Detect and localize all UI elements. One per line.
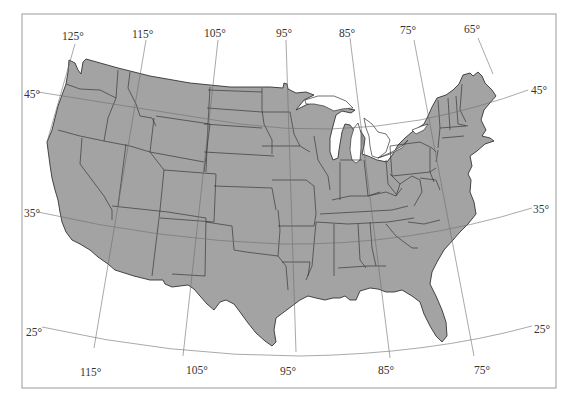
lat-label-right-35: 35° bbox=[533, 203, 550, 215]
lon-label-top-85: 85° bbox=[339, 27, 356, 39]
lat-label-left-45: 45° bbox=[24, 88, 41, 100]
lon-label-top-125: 125° bbox=[62, 30, 84, 42]
lon-label-top-75: 75° bbox=[400, 24, 417, 36]
lon-label-top-115: 115° bbox=[132, 28, 154, 40]
lon-label-bottom-85: 85° bbox=[378, 364, 395, 376]
lon-label-bottom-75: 75° bbox=[474, 364, 491, 376]
map-canvas: 125° 115° 105° 95° 85° 75° 65° 115° 105°… bbox=[0, 0, 573, 406]
lon-label-bottom-115: 115° bbox=[80, 366, 102, 378]
lon-label-top-105: 105° bbox=[204, 27, 226, 39]
lon-label-top-65: 65° bbox=[464, 23, 481, 35]
lat-label-left-25: 25° bbox=[26, 326, 43, 338]
lon-label-bottom-95: 95° bbox=[280, 365, 297, 377]
lon-label-bottom-105: 105° bbox=[186, 364, 208, 376]
lat-label-right-25: 25° bbox=[534, 323, 551, 335]
us-map: 125° 115° 105° 95° 85° 75° 65° 115° 105°… bbox=[0, 0, 573, 406]
lat-label-right-45: 45° bbox=[531, 84, 548, 96]
lat-label-left-35: 35° bbox=[24, 207, 41, 219]
lon-label-top-95: 95° bbox=[276, 27, 293, 39]
